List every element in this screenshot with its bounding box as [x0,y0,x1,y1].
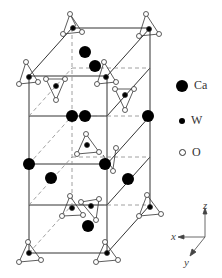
ca-atom-icon [176,80,188,92]
tetra-bottom-right [94,240,121,265]
legend-item-ca: Ca [176,78,207,93]
legend-item-o: O [179,145,201,160]
tetra-top-back-left [61,12,85,37]
tetra-inner-2 [113,87,137,113]
tetra-lower-center [60,194,102,223]
legend-label: W [191,113,202,128]
axis-label-z: z [203,199,207,211]
calcium-atoms [23,46,154,232]
legend-label: O [192,145,201,160]
axis-indicator [178,208,207,256]
tetra-bottom-left [17,240,44,265]
tetra-top-back-right [137,12,162,39]
legend-label: Ca [194,78,207,93]
hidden-edges [29,28,150,253]
tetra-inner-1 [44,77,68,103]
w-atom-icon [179,118,185,124]
legend-item-w: W [179,113,202,128]
crystal-structure-diagram [0,0,222,278]
axis-label-x: x [171,230,176,242]
o-atom-icon [179,149,186,156]
unit-cell-box [29,28,150,253]
tetra-middle [75,132,119,174]
axis-label-y: y [184,256,189,268]
